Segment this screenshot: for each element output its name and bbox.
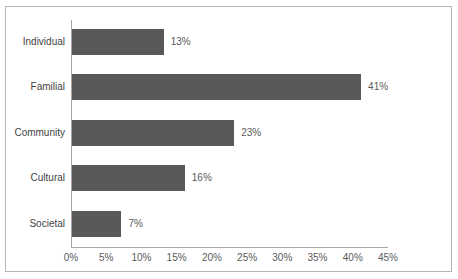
- x-tick-label-25: 25%: [237, 252, 257, 263]
- bar-familial: [72, 74, 361, 100]
- x-tick-label-0: 0%: [64, 252, 78, 263]
- x-tick-label-5: 5%: [99, 252, 113, 263]
- x-tick-label-30: 30%: [272, 252, 292, 263]
- bar-cultural: [72, 165, 185, 191]
- bar-societal: [72, 211, 121, 237]
- category-label-familial: Familial: [31, 74, 72, 100]
- bar-value-individual: 13%: [164, 29, 191, 55]
- x-tick-label-10: 10%: [131, 252, 151, 263]
- bar-community: [72, 120, 234, 146]
- category-label-societal: Societal: [29, 211, 72, 237]
- chart-screenshot: Individual 13% Familial 41% Community 23…: [0, 0, 458, 279]
- category-label-cultural: Cultural: [31, 165, 72, 191]
- bar-value-community: 23%: [234, 120, 261, 146]
- x-tick-label-40: 40%: [343, 252, 363, 263]
- x-axis-line: [71, 247, 388, 248]
- bar-value-societal: 7%: [121, 211, 142, 237]
- category-label-community: Community: [14, 120, 72, 146]
- x-tick-label-15: 15%: [167, 252, 187, 263]
- category-label-individual: Individual: [23, 29, 72, 55]
- bar-value-cultural: 16%: [185, 165, 212, 191]
- x-tick-label-45: 45%: [378, 252, 398, 263]
- x-tick-label-35: 35%: [307, 252, 327, 263]
- bar-value-familial: 41%: [361, 74, 388, 100]
- x-tick-label-20: 20%: [202, 252, 222, 263]
- plot-area: Individual 13% Familial 41% Community 23…: [71, 20, 388, 247]
- chart-frame: Individual 13% Familial 41% Community 23…: [5, 6, 452, 272]
- bar-individual: [72, 29, 164, 55]
